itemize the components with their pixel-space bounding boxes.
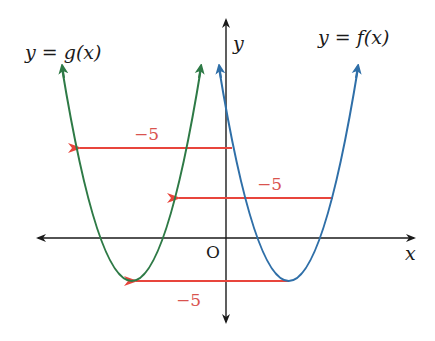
f-curve-arrow-right <box>356 66 358 78</box>
g-curve-arrow-right <box>199 66 201 78</box>
g-curve <box>62 68 201 281</box>
f-curve <box>219 68 358 281</box>
origin-label: O <box>206 244 220 261</box>
y-axis-label: y <box>233 34 244 53</box>
axes <box>38 20 414 322</box>
shift-label-middle: −5 <box>257 176 282 193</box>
x-axis-label: x <box>405 244 416 263</box>
shift-label-bottom: −5 <box>176 292 201 309</box>
translation-diagram: y = g(x) y = f(x) y x O −5 −5 −5 <box>0 0 435 341</box>
g-curve-label: y = g(x) <box>25 43 101 62</box>
f-curve-label: y = f(x) <box>318 28 389 47</box>
shift-label-top: −5 <box>134 126 159 143</box>
